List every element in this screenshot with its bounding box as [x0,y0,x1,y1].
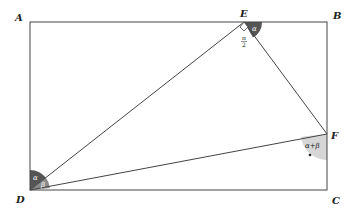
label-C: C [332,195,340,206]
label-F: F [330,130,339,141]
angle-label-beta-D: β [40,181,45,189]
angle-label-alpha-D: α [33,174,38,182]
label-D: D [15,194,25,205]
arc-marker-F [309,154,312,157]
label-E: E [239,8,248,19]
angle-label-alpha-E: α [252,25,257,33]
angle-label-pi-over-2-num: π [242,34,246,41]
segment-DE [30,22,244,190]
label-B: B [332,10,341,21]
segment-EF [244,22,327,134]
rectangle-ABCD [30,22,327,190]
geometry-diagram: A B C D E F α π 2 α β α+β [0,0,356,213]
angle-label-alpha-beta-F: α+β [305,142,320,150]
label-A: A [14,12,23,23]
angle-label-pi-over-2-den: 2 [242,41,246,48]
segment-DF [30,134,327,190]
